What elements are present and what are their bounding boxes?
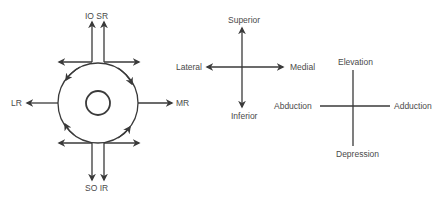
eye-movements-panel	[320, 70, 390, 146]
label-adduction: Adduction	[394, 102, 432, 111]
rotation-arrow-bottom-left	[65, 124, 74, 135]
rotation-arrow-bottom-right	[118, 127, 130, 138]
label-superior: Superior	[228, 16, 260, 25]
diagram-svg	[0, 0, 444, 199]
label-abduction: Abduction	[274, 102, 312, 111]
pupil-circle	[86, 91, 110, 115]
label-mr: MR	[176, 99, 189, 108]
diagram-canvas: IO SR SO IR LR MR Superior Inferior Late…	[0, 0, 444, 199]
label-elevation: Elevation	[338, 58, 373, 67]
label-inferior: Inferior	[231, 112, 257, 121]
anatomical-directions-panel	[207, 28, 283, 107]
label-medial: Medial	[290, 63, 315, 72]
label-lr: LR	[11, 99, 22, 108]
label-io-sr: IO SR	[85, 12, 108, 21]
muscle-actions-panel	[27, 22, 172, 180]
label-lateral: Lateral	[176, 63, 202, 72]
label-so-ir: SO IR	[85, 184, 108, 193]
label-depression: Depression	[336, 150, 379, 159]
rotation-arrow-top-left	[66, 67, 80, 80]
